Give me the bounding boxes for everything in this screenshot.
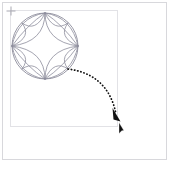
inner-canvas-frame[interactable]: [10, 10, 118, 127]
screenshot-stage: [0, 0, 171, 170]
